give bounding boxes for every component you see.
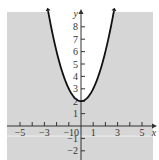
y-tick-label: 5 [73, 59, 78, 70]
y-tick-label: 3 [73, 83, 78, 94]
y-tick-label: −2 [67, 145, 78, 156]
y-tick-label: −1 [67, 133, 78, 144]
y-axis-arrow-icon [79, 9, 84, 14]
curve-arrow-icon [111, 8, 116, 11]
y-tick-label: 6 [73, 46, 78, 57]
x-tick-label: −3 [39, 127, 50, 138]
shaded-region [7, 12, 153, 160]
y-tick-label: 4 [73, 71, 78, 82]
x-tick-label: 1 [91, 127, 96, 138]
curve-arrow-icon [46, 8, 51, 11]
y-tick-label: 8 [73, 21, 78, 32]
x-axis-label: x [151, 127, 157, 138]
parabola-inequality-graph: −5−3−11350−2−112345678xy [0, 0, 159, 160]
x-tick-label: −5 [15, 127, 26, 138]
y-tick-label: 1 [73, 108, 78, 119]
y-tick-label: 7 [73, 34, 78, 45]
x-tick-label: 3 [115, 127, 120, 138]
x-tick-label: 5 [140, 127, 145, 138]
y-axis-label: y [73, 8, 79, 19]
scan-line [7, 136, 153, 137]
